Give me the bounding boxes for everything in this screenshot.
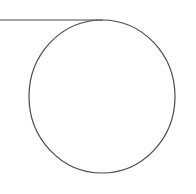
diagram-svg [0, 0, 196, 194]
circle-shape [29, 20, 175, 173]
diagram-canvas [0, 0, 196, 194]
